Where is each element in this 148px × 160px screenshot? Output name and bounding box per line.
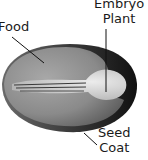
seed-diagram: Food Embryo Plant Seed Coat (0, 0, 148, 160)
embryo-plant-label: Embryo Plant (94, 0, 144, 26)
seed-coat-leader-line (84, 133, 97, 145)
seed-label-line2: Coat (98, 140, 131, 155)
seed-coat-label: Seed Coat (98, 125, 131, 155)
embryo-label-line1: Embryo (94, 0, 144, 11)
seed-label-line1: Seed (98, 125, 131, 140)
food-label: Food (0, 19, 29, 34)
embryo-label-line2: Plant (94, 11, 144, 26)
